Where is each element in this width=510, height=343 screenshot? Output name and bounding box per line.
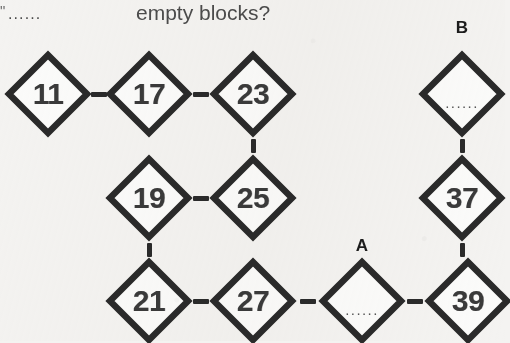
diamond-node[interactable]: 11 bbox=[6, 52, 90, 136]
connector-e23-25 bbox=[251, 139, 256, 153]
diamond-value: 21 bbox=[133, 286, 165, 316]
header-left-ellipsis: ...... bbox=[8, 6, 41, 22]
node-label-b: B bbox=[450, 19, 474, 36]
connector-e37-39 bbox=[460, 243, 465, 257]
diamond-node[interactable]: 21 bbox=[107, 259, 191, 343]
connector-e17-23 bbox=[193, 92, 209, 97]
diamond-node-empty[interactable]: ...... bbox=[420, 52, 504, 136]
diamond-value: 37 bbox=[446, 183, 478, 213]
header-left-fragment: " bbox=[0, 3, 4, 18]
diamond-value: 27 bbox=[237, 286, 269, 316]
diamond-value: 39 bbox=[452, 286, 484, 316]
diamond-value: 23 bbox=[237, 79, 269, 109]
diamond-value: 19 bbox=[133, 183, 165, 213]
connector-e19-25 bbox=[193, 196, 209, 201]
header-question-text: empty blocks? bbox=[136, 0, 270, 26]
diamond-node[interactable]: 17 bbox=[107, 52, 191, 136]
diamond-node[interactable]: 39 bbox=[426, 259, 510, 343]
diamond-node[interactable]: 25 bbox=[211, 156, 295, 240]
connector-e19-21 bbox=[147, 243, 152, 257]
diamond-value: 17 bbox=[133, 79, 165, 109]
connector-e27-A bbox=[300, 299, 316, 304]
node-label-a: A bbox=[350, 237, 374, 254]
connector-eA-39 bbox=[407, 299, 423, 304]
diamond-node[interactable]: 23 bbox=[211, 52, 295, 136]
connector-e21-27 bbox=[193, 299, 209, 304]
diamond-node[interactable]: 19 bbox=[107, 156, 191, 240]
diamond-value: 25 bbox=[237, 183, 269, 213]
diamond-empty-marker: ...... bbox=[345, 302, 378, 317]
connector-e11-17 bbox=[91, 92, 107, 97]
diamond-node[interactable]: 27 bbox=[211, 259, 295, 343]
diamond-empty-marker: ...... bbox=[445, 95, 478, 110]
connector-eB-37 bbox=[460, 139, 465, 153]
diamond-value: 11 bbox=[33, 79, 64, 109]
diamond-node[interactable]: 37 bbox=[420, 156, 504, 240]
diamond-node-empty[interactable]: ...... bbox=[320, 259, 404, 343]
